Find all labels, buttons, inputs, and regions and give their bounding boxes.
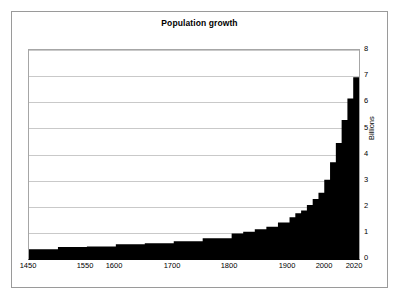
chart-title: Population growth [12, 18, 387, 28]
y-tick-3: 3 [364, 176, 380, 184]
population-area-series [29, 50, 359, 259]
y-tick-8: 8 [364, 45, 380, 53]
plot-area [28, 49, 360, 260]
chart-frame: Population growth 8 7 6 5 4 3 2 1 0 Bill… [11, 11, 388, 288]
x-tick-1700: 1700 [152, 261, 192, 270]
y-tick-6: 6 [364, 97, 380, 105]
y-tick-4: 4 [364, 150, 380, 158]
y-tick-2: 2 [364, 202, 380, 210]
x-tick-1600: 1600 [94, 261, 134, 270]
y-tick-1: 1 [364, 228, 380, 236]
x-tick-1800: 1800 [209, 261, 249, 270]
x-tick-2020: 2020 [334, 261, 374, 270]
x-tick-1450: 1450 [8, 261, 48, 270]
y-tick-7: 7 [364, 71, 380, 79]
x-tick-1900: 1900 [267, 261, 307, 270]
y-axis-title: Billions [367, 116, 376, 140]
